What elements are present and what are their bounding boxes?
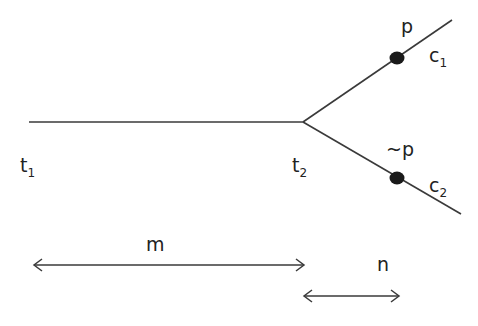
- upper-branch-line: [303, 20, 452, 122]
- interval-arrow-m: [34, 259, 304, 271]
- label-m: m: [146, 233, 165, 255]
- label-t2: t2: [292, 154, 307, 180]
- label-t1: t1: [20, 154, 35, 180]
- event-dot-p: [390, 52, 405, 65]
- label-c1: c1: [429, 44, 447, 70]
- interval-arrow-n: [304, 290, 399, 302]
- branching-timeline-diagram: t1 t2 p c1 ~p c2 m n: [0, 0, 478, 326]
- event-dot-not-p: [390, 172, 405, 185]
- label-p: p: [401, 15, 413, 37]
- label-not-p: ~p: [386, 138, 414, 160]
- lower-branch-line: [303, 122, 461, 214]
- label-n: n: [377, 253, 389, 275]
